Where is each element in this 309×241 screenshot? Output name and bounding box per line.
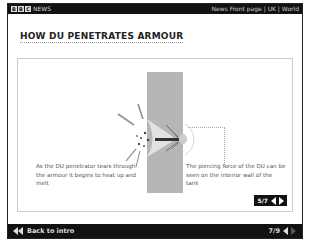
page-pager: 7/9 <box>269 224 296 238</box>
caption-left: As the DU penetrator tears through the a… <box>36 162 146 188</box>
logo-letter: C <box>25 6 31 12</box>
triangle-left-icon[interactable] <box>271 197 276 205</box>
top-bar: B B C NEWS News Front page | UK | World <box>8 4 302 14</box>
callout-line-vertical <box>224 127 225 167</box>
page-title: HOW DU PENETRATES ARMOUR <box>20 31 183 43</box>
bottom-bar: Back to intro 7/9 <box>8 224 302 238</box>
logo-letter: B <box>18 6 24 12</box>
slide-counter: 5/7 <box>257 195 268 206</box>
diagram-panel: As the DU penetrator tears through the a… <box>17 58 293 212</box>
slide-pager: 5/7 <box>254 195 287 206</box>
page-prev-icon[interactable] <box>283 227 288 235</box>
page-next-icon[interactable] <box>291 227 296 235</box>
back-to-intro-button[interactable]: Back to intro <box>13 224 74 238</box>
callout-line-horizontal <box>188 127 225 128</box>
brand-news[interactable]: NEWS <box>33 4 51 14</box>
caption-right: The piercing force of the DU can be seen… <box>186 162 286 188</box>
page-counter: 7/9 <box>269 224 280 238</box>
triangle-right-icon[interactable] <box>279 197 284 205</box>
double-triangle-left-icon <box>13 227 23 235</box>
bbc-logo[interactable]: B B C <box>11 6 31 12</box>
back-label: Back to intro <box>27 224 74 238</box>
top-nav-links[interactable]: News Front page | UK | World <box>212 4 299 14</box>
logo-letter: B <box>11 6 17 12</box>
interactive-frame: B B C NEWS News Front page | UK | World … <box>7 3 303 239</box>
